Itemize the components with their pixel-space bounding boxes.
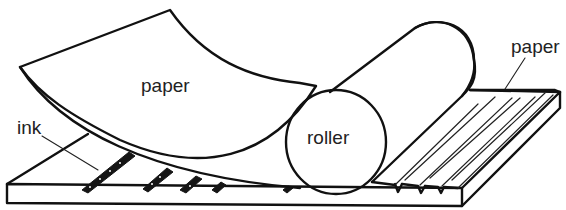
roller — [286, 22, 475, 194]
ink-leader-line — [42, 136, 98, 170]
label-paper-top: paper — [141, 75, 190, 96]
paper-sheet-lifted — [20, 10, 316, 188]
roller-printing-diagram: paper ink roller paper — [0, 0, 566, 210]
label-paper-right: paper — [511, 36, 560, 57]
label-roller: roller — [307, 127, 350, 148]
label-ink: ink — [17, 117, 42, 138]
paper-sheet-printed — [372, 90, 560, 193]
paper-leader-line — [505, 58, 525, 89]
